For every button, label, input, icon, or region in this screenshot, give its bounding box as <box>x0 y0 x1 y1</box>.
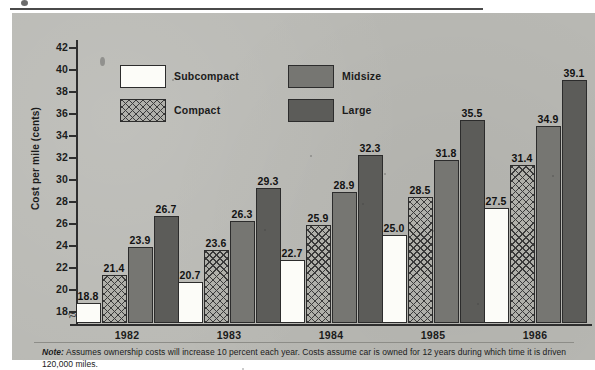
legend-swatch-icon <box>288 99 334 122</box>
bar-value-label: 31.4 <box>512 152 533 164</box>
y-axis-tick-label: 34 <box>38 129 68 141</box>
bar-value-label: 39.1 <box>564 67 585 79</box>
bar-compact[interactable]: 23.6 <box>204 250 229 323</box>
bar-midsize[interactable]: 26.3 <box>230 221 255 323</box>
bar-compact[interactable]: 21.4 <box>102 275 127 323</box>
x-axis-tick-label: 1986 <box>487 329 583 341</box>
bar-compact[interactable]: 28.5 <box>408 197 433 324</box>
y-axis-tick <box>69 157 77 159</box>
bar-value-label: 27.5 <box>486 195 507 207</box>
y-axis-tick-label: 24 <box>38 239 68 251</box>
x-axis-tick-label: 1982 <box>79 329 175 341</box>
bar-subcompact[interactable]: 20.7 <box>178 282 203 323</box>
y-axis-tick-label: 28 <box>38 195 68 207</box>
bar-value-label: 25.9 <box>308 212 329 224</box>
bar-value-label: 34.9 <box>538 113 559 125</box>
y-axis-tick-label: 40 <box>38 63 68 75</box>
bar-large[interactable]: 26.7 <box>154 216 179 323</box>
y-axis-tick-label: 38 <box>38 85 68 97</box>
bar-midsize[interactable]: 34.9 <box>536 126 561 323</box>
legend-label: Subcompact <box>174 70 239 82</box>
bar-subcompact[interactable]: 27.5 <box>484 208 509 324</box>
y-axis-tick-label: 30 <box>38 173 68 185</box>
bar-value-label: 21.4 <box>104 262 125 274</box>
y-axis-tick <box>69 245 77 247</box>
y-axis-tick <box>69 91 77 93</box>
y-axis-tick <box>69 69 77 71</box>
page-top-artifact <box>21 0 28 6</box>
bar-group: 25.028.531.835.5 <box>382 37 484 323</box>
bar-value-label: 31.8 <box>436 147 457 159</box>
y-axis-tick-label: 20 <box>38 283 68 295</box>
bar-large[interactable]: 39.1 <box>562 80 587 323</box>
bar-midsize[interactable]: 23.9 <box>128 247 153 323</box>
y-axis-tick <box>69 223 77 225</box>
x-axis-tick-label: 1983 <box>181 329 277 341</box>
footnote-lead: Note: <box>42 347 64 357</box>
bar-value-label: 35.5 <box>462 107 483 119</box>
legend-swatch-icon <box>120 99 166 122</box>
bar-large[interactable]: 29.3 <box>256 188 281 323</box>
y-axis-tick <box>69 179 77 181</box>
bar-value-label: 25.0 <box>384 222 405 234</box>
bar-value-label: 32.3 <box>360 142 381 154</box>
bar-value-label: 29.3 <box>258 175 279 187</box>
legend-label: Large <box>342 104 372 116</box>
y-axis-tick-label-group: 18202224262830323436384042 <box>30 13 68 333</box>
bar-value-label: 22.7 <box>282 247 303 259</box>
chart-figure-panel: Cost per mile (cents) 182022242628303234… <box>12 13 595 360</box>
legend-label: Midsize <box>342 70 381 82</box>
y-axis-tick-label: 18 <box>38 305 68 317</box>
y-axis-tick-label: 26 <box>38 217 68 229</box>
bar-large[interactable]: 32.3 <box>358 155 383 323</box>
bar-midsize[interactable]: 31.8 <box>434 160 459 323</box>
legend-label: Compact <box>174 104 220 116</box>
y-axis-tick <box>69 311 77 313</box>
bar-value-label: 26.3 <box>232 208 253 220</box>
y-axis-tick <box>69 113 77 115</box>
bar-value-label: 28.9 <box>334 179 355 191</box>
y-axis-tick <box>69 289 77 291</box>
bar-subcompact[interactable]: 25.0 <box>382 235 407 323</box>
bar-value-label: 23.6 <box>206 237 227 249</box>
bar-value-label: 28.5 <box>410 184 431 196</box>
bar-subcompact[interactable]: 22.7 <box>280 260 305 323</box>
x-axis-tick-label: 1984 <box>283 329 379 341</box>
y-axis-tick-label: 22 <box>38 261 68 273</box>
bar-value-label: 18.8 <box>78 290 99 302</box>
bar-compact[interactable]: 25.9 <box>306 225 331 323</box>
bar-subcompact[interactable]: 18.8 <box>76 303 101 323</box>
y-axis-tick-label: 32 <box>38 151 68 163</box>
footnote-divider <box>34 342 574 343</box>
bar-compact[interactable]: 31.4 <box>510 165 535 323</box>
bar-group: 27.531.434.939.1 <box>484 37 586 323</box>
x-axis-tick-label-group: 19821983198419851986 <box>76 329 586 347</box>
legend-swatch-icon <box>120 65 166 88</box>
y-axis-tick-label: 36 <box>38 107 68 119</box>
chart-legend: SubcompactCompactMidsizeLarge <box>120 65 380 127</box>
x-axis-tick-label: 1985 <box>385 329 481 341</box>
footnote-body: Assumes ownership costs will increase 10… <box>42 347 566 369</box>
bar-value-label: 23.9 <box>130 234 151 246</box>
figure-footnote: Note: Assumes ownership costs will incre… <box>42 346 582 370</box>
y-axis-tick <box>69 267 77 269</box>
page-top-rule <box>10 8 483 10</box>
y-axis-tick <box>69 47 77 49</box>
y-axis-tick-label: 42 <box>38 41 68 53</box>
x-axis-line <box>70 324 592 326</box>
bar-value-label: 20.7 <box>180 269 201 281</box>
y-axis-tick <box>69 135 77 137</box>
bar-midsize[interactable]: 28.9 <box>332 192 357 323</box>
bar-large[interactable]: 35.5 <box>460 120 485 324</box>
legend-swatch-icon <box>288 65 334 88</box>
y-axis-tick <box>69 201 77 203</box>
bar-value-label: 26.7 <box>156 203 177 215</box>
